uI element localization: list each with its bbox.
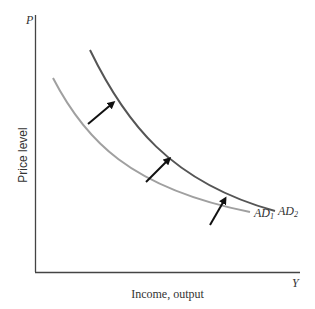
y-axis-letter: P: [26, 13, 33, 28]
ad2-label-base: AD: [278, 204, 294, 218]
y-axis-label: Price level: [16, 120, 30, 190]
shift-arrow-1: [88, 103, 113, 124]
ad2-label-sub: 2: [294, 210, 298, 219]
ad1-curve: [53, 78, 250, 212]
diagram-canvas: [0, 0, 315, 309]
ad1-label-sub: 1: [270, 212, 274, 221]
x-axis-label: Income, output: [0, 287, 315, 302]
shift-arrow-2: [146, 159, 169, 182]
aggregate-demand-shift-diagram: P Y Price level Income, output AD2 AD1: [0, 0, 315, 309]
ad2-label: AD2: [278, 204, 298, 219]
ad1-label: AD1: [254, 206, 274, 221]
ad2-curve: [90, 50, 275, 211]
ad1-label-base: AD: [254, 206, 270, 220]
